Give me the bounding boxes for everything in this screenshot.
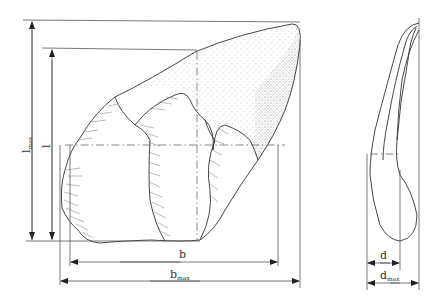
flake-dorsal-view [61,24,300,243]
b-label: b [179,248,186,261]
l-max-label: lmax [20,136,33,153]
profile-ridge [397,28,416,140]
measurement-diagram: lmax l b bmax d dmax [0,0,438,299]
svg-text:l: l [40,144,53,148]
profile-outline-outer [370,23,419,241]
svg-text:lmax: lmax [20,136,33,153]
d-label: d [380,249,387,262]
flake-profile-view: d dmax [367,18,419,290]
d-max-label: dmax [380,269,400,282]
b-max-label: bmax [170,268,190,281]
l-label: l [40,144,53,148]
scar-middle [135,93,215,240]
